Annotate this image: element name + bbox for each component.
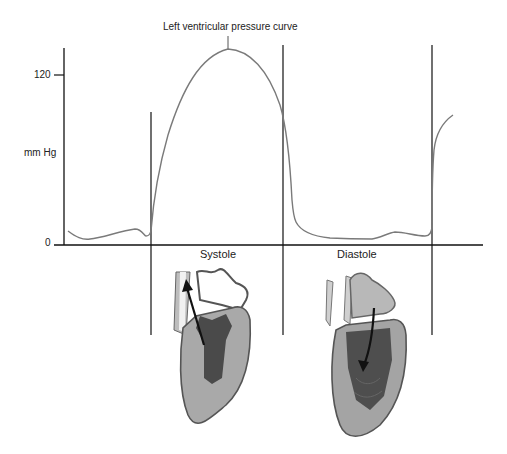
y-tick-label-120: 120 [34, 69, 51, 80]
heart-diastole-illustration [326, 273, 406, 436]
chart-title: Left ventricular pressure curve [163, 21, 298, 32]
phase-label-diastole: Diastole [337, 248, 377, 260]
figure: Left ventricular pressure curve 120 mm H… [0, 0, 507, 454]
y-tick-label-0: 0 [45, 237, 51, 248]
phase-label-systole: Systole [200, 248, 236, 260]
pressure-curve [68, 49, 453, 239]
pressure-diagram [0, 0, 507, 454]
y-axis-label: mm Hg [24, 147, 56, 158]
heart-systole-illustration [174, 269, 250, 423]
